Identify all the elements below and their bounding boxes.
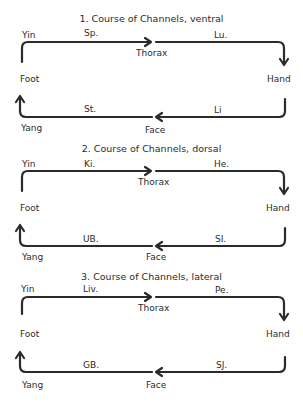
foot-label: Foot <box>20 329 39 339</box>
top-left-channel-label: Ki. <box>84 159 95 169</box>
hand-label: Hand <box>266 203 290 213</box>
foot-label: Foot <box>20 74 39 84</box>
bottom-left-channel-label: UB. <box>83 234 99 244</box>
top-right-channel-label: Lu. <box>214 30 227 40</box>
bottom-right-channel-label: SI. <box>215 234 226 244</box>
bottom-right-channel-label: SJ. <box>216 360 227 370</box>
top-left-channel-label: Sp. <box>84 28 98 38</box>
bottom-right-channel-label: Li <box>214 105 222 115</box>
face-label: Face <box>146 380 166 390</box>
yin-label: Yin <box>22 159 35 169</box>
top-right-channel-label: He. <box>214 159 229 169</box>
yang-label: Yang <box>22 380 43 390</box>
top-left-channel-label: Liv. <box>83 284 98 294</box>
thorax-label: Thorax <box>138 177 169 187</box>
bottom-left-channel-label: GB. <box>83 360 99 370</box>
flow-arrows <box>0 129 303 259</box>
channel-diagram-dorsal: 2. Course of Channels, dorsal Yin Ki. He… <box>0 129 303 259</box>
thorax-label: Thorax <box>138 303 169 313</box>
channel-diagram-lateral: 3. Course of Channels, lateral Yin Liv. … <box>0 255 303 385</box>
channel-diagram-ventral: 1. Course of Channels, ventral Yin Sp. L… <box>0 0 303 130</box>
hand-label: Hand <box>266 329 290 339</box>
bottom-left-channel-label: St. <box>84 104 96 114</box>
hand-label: Hand <box>267 74 291 84</box>
thorax-label: Thorax <box>136 48 167 58</box>
top-right-channel-label: Pe. <box>215 285 229 295</box>
yin-label: Yin <box>22 30 35 40</box>
foot-label: Foot <box>20 203 39 213</box>
flow-arrows <box>0 255 303 395</box>
yin-label: Yin <box>21 284 34 294</box>
flow-arrows <box>0 0 303 130</box>
